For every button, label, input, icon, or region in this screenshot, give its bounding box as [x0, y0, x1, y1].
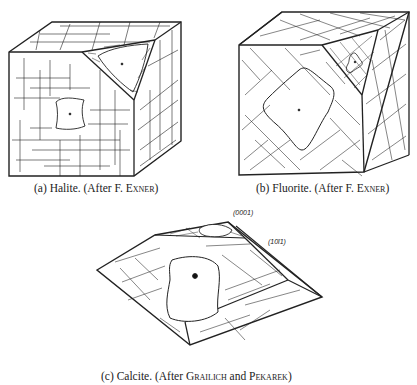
face-label-1011: (10ī1)	[268, 238, 286, 245]
caption-fluorite: (b) Fluorite. (After F. Exner)	[256, 182, 389, 194]
halite-cube-drawing	[9, 22, 181, 176]
caption-halite-author: Exner	[126, 182, 155, 194]
caption-fluorite-end: )	[385, 182, 389, 194]
caption-fluorite-text: (b) Fluorite. (After F.	[256, 182, 357, 194]
caption-halite-text: (a) Halite. (After F.	[34, 182, 126, 194]
caption-calcite-end: )	[288, 370, 292, 382]
fluorite-cube-drawing	[239, 12, 409, 176]
caption-fluorite-author: Exner	[357, 182, 386, 194]
caption-calcite-author1: Grailich	[186, 370, 227, 382]
caption-calcite-mid: and	[227, 370, 249, 382]
caption-calcite-text: (c) Calcite. (After	[101, 370, 186, 382]
caption-halite: (a) Halite. (After F. Exner)	[34, 182, 158, 194]
caption-calcite-author2: Pekarek	[249, 370, 288, 382]
face-label-0001: (0001)	[233, 209, 253, 216]
caption-calcite: (c) Calcite. (After Grailich and Pekarek…	[101, 370, 292, 382]
calcite-rhomb-drawing	[97, 222, 322, 345]
caption-halite-end: )	[155, 182, 159, 194]
